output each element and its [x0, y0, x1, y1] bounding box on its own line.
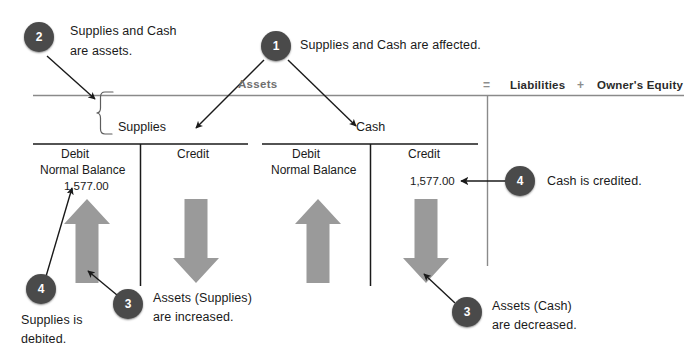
cash-credit-down-block-arrow — [403, 199, 449, 283]
callout-1-pointer-cash — [288, 60, 356, 126]
callout-1-line-1: Supplies and Cash are affected. — [300, 38, 481, 53]
callout-2-line-1: Supplies and Cash — [70, 24, 177, 39]
callout-4-cash-line-1: Cash is credited. — [547, 174, 642, 189]
supplies-debit-amount: 1,577.00 — [64, 179, 109, 193]
callout-1-pointer-supplies — [196, 60, 264, 128]
callout-badge-3-supplies[interactable]: 3 — [113, 289, 143, 319]
callout-badge-4-supplies[interactable]: 4 — [26, 274, 56, 304]
cash-debit-header: Debit — [292, 147, 320, 162]
callout-3-supplies-line-2: are increased. — [153, 310, 234, 325]
supplies-debit-header: Debit — [61, 147, 89, 162]
callout-badge-2[interactable]: 2 — [24, 22, 54, 52]
cash-credit-header: Credit — [408, 147, 440, 162]
supplies-debit-up-block-arrow — [64, 199, 110, 283]
callout-3-cash-line-2: are decreased. — [492, 318, 577, 333]
callout-3-supplies-line-1: Assets (Supplies) — [153, 291, 252, 306]
callout-4-supplies-line-2: debited. — [21, 332, 66, 347]
cash-account-title: Cash — [356, 120, 385, 135]
callout-badge-4-cash[interactable]: 4 — [505, 166, 535, 196]
plus-sign: + — [577, 78, 584, 93]
callout-2-line-2: are assets. — [70, 44, 132, 59]
owners-equity-label: Owner's Equity — [597, 78, 683, 92]
callout-3-cash-line-1: Assets (Cash) — [492, 299, 572, 314]
supplies-credit-down-block-arrow — [173, 199, 219, 283]
cash-credit-amount: 1,577.00 — [410, 174, 455, 188]
callout-3-cash-pointer — [424, 274, 455, 303]
cash-debit-subheader: Normal Balance — [271, 163, 356, 178]
equals-sign: = — [483, 78, 490, 93]
callout-2-pointer — [47, 56, 95, 99]
callout-badge-1[interactable]: 1 — [261, 31, 291, 61]
cash-debit-up-block-arrow — [295, 199, 341, 283]
callout-badge-3-cash[interactable]: 3 — [452, 297, 482, 327]
supplies-debit-subheader: Normal Balance — [40, 163, 125, 178]
callout-4-supplies-line-1: Supplies is — [21, 313, 83, 328]
supplies-credit-header: Credit — [177, 147, 209, 162]
assets-group-brace — [97, 92, 114, 134]
supplies-account-title: Supplies — [118, 120, 166, 135]
assets-label: Assets — [238, 77, 278, 91]
diagram-canvas: Assets = Liabilities + Owner's Equity Su… — [0, 0, 694, 359]
liabilities-label: Liabilities — [510, 78, 565, 92]
